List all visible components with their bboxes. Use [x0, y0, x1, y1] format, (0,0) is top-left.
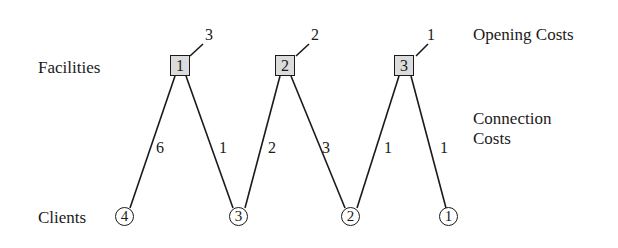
edge-f3-c2: [357, 76, 399, 208]
opening-costs-label: Opening Costs: [473, 26, 574, 43]
edge-f1-c4: [130, 76, 175, 208]
connection-costs-label-line2: Costs: [473, 130, 511, 147]
edge-cost-f3-c2: 1: [384, 140, 392, 156]
edge-f2-c2: [291, 76, 345, 208]
facilities-label: Facilities: [38, 59, 100, 76]
clients-label: Clients: [38, 209, 86, 226]
edge-cost-f1-c3: 1: [219, 140, 227, 156]
edge-cost-f1-c4: 6: [156, 140, 164, 156]
client-node-4[interactable]: 4: [115, 207, 134, 226]
opening-tick-1: [190, 44, 203, 56]
opening-cost-3: 1: [427, 27, 435, 43]
edge-cost-f3-c1: 1: [440, 140, 448, 156]
client-node-2[interactable]: 2: [341, 207, 360, 226]
facility-node-2[interactable]: 2: [275, 55, 295, 76]
opening-cost-1: 3: [205, 27, 213, 43]
opening-tick-3: [416, 44, 428, 56]
edge-cost-f2-c3: 2: [268, 140, 276, 156]
client-node-3[interactable]: 3: [229, 207, 248, 226]
facility-node-3[interactable]: 3: [394, 55, 414, 76]
connection-costs-label-line1: Connection: [473, 110, 551, 127]
edge-cost-f2-c2: 3: [322, 140, 330, 156]
facility-node-1[interactable]: 1: [170, 55, 190, 76]
opening-tick-2: [296, 44, 309, 56]
opening-cost-2: 2: [311, 27, 319, 43]
client-node-1[interactable]: 1: [439, 207, 458, 226]
